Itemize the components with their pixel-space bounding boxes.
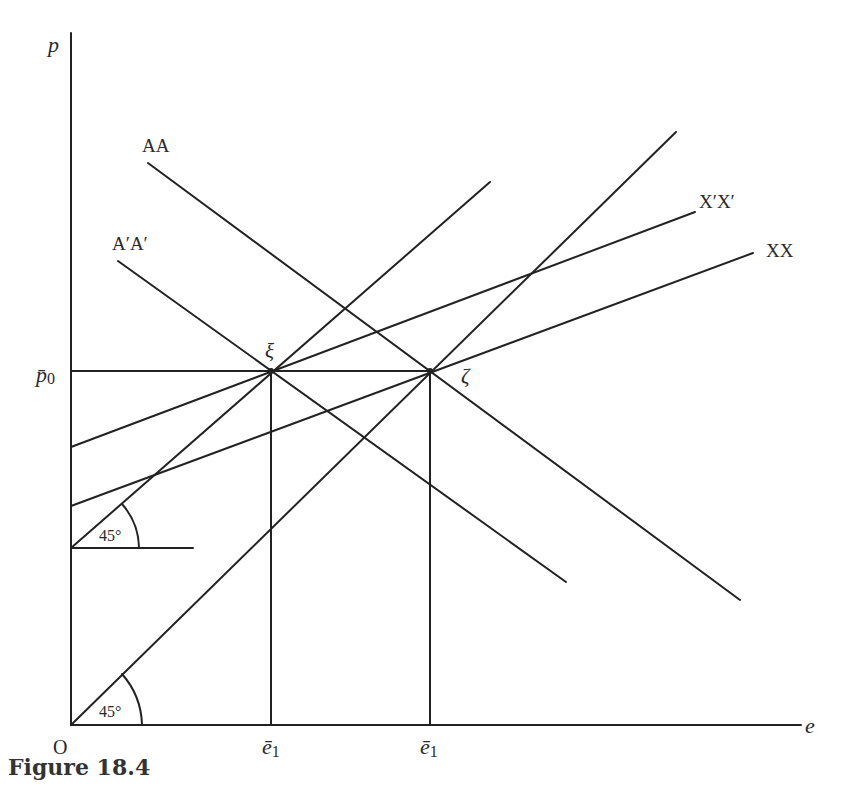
xx-label: XX xyxy=(766,240,794,261)
xpxp-curve xyxy=(71,212,695,447)
zeta-point xyxy=(427,368,433,374)
e1-tick-label-xi: ē1 xyxy=(262,734,280,760)
zeta-label: ζ xyxy=(461,364,471,388)
figure-caption: Figure 18.4 xyxy=(8,754,150,780)
x-axis-label: e xyxy=(805,713,815,738)
upper-45-angle-arc xyxy=(122,504,139,548)
apap-label: A′A′ xyxy=(112,233,148,254)
diagram-canvas: p e O p̄0 ē1 ē1 AA A′A′ X′X′ XX ξ ζ 45° … xyxy=(0,0,846,791)
p0-tick-label: p̄0 xyxy=(34,362,55,387)
upper-45-angle-label: 45° xyxy=(99,527,121,544)
y-axis-label: p xyxy=(46,32,59,57)
lower-45-angle-label: 45° xyxy=(99,703,121,720)
lower-45-angle-arc xyxy=(122,674,142,725)
lower-45-degree-line xyxy=(71,132,676,725)
aa-label: AA xyxy=(142,135,170,156)
xpxp-label: X′X′ xyxy=(699,191,735,212)
xi-point xyxy=(268,368,274,374)
e1-tick-label-zeta: ē1 xyxy=(420,734,438,760)
xi-label: ξ xyxy=(265,339,274,363)
xx-curve xyxy=(71,253,753,506)
